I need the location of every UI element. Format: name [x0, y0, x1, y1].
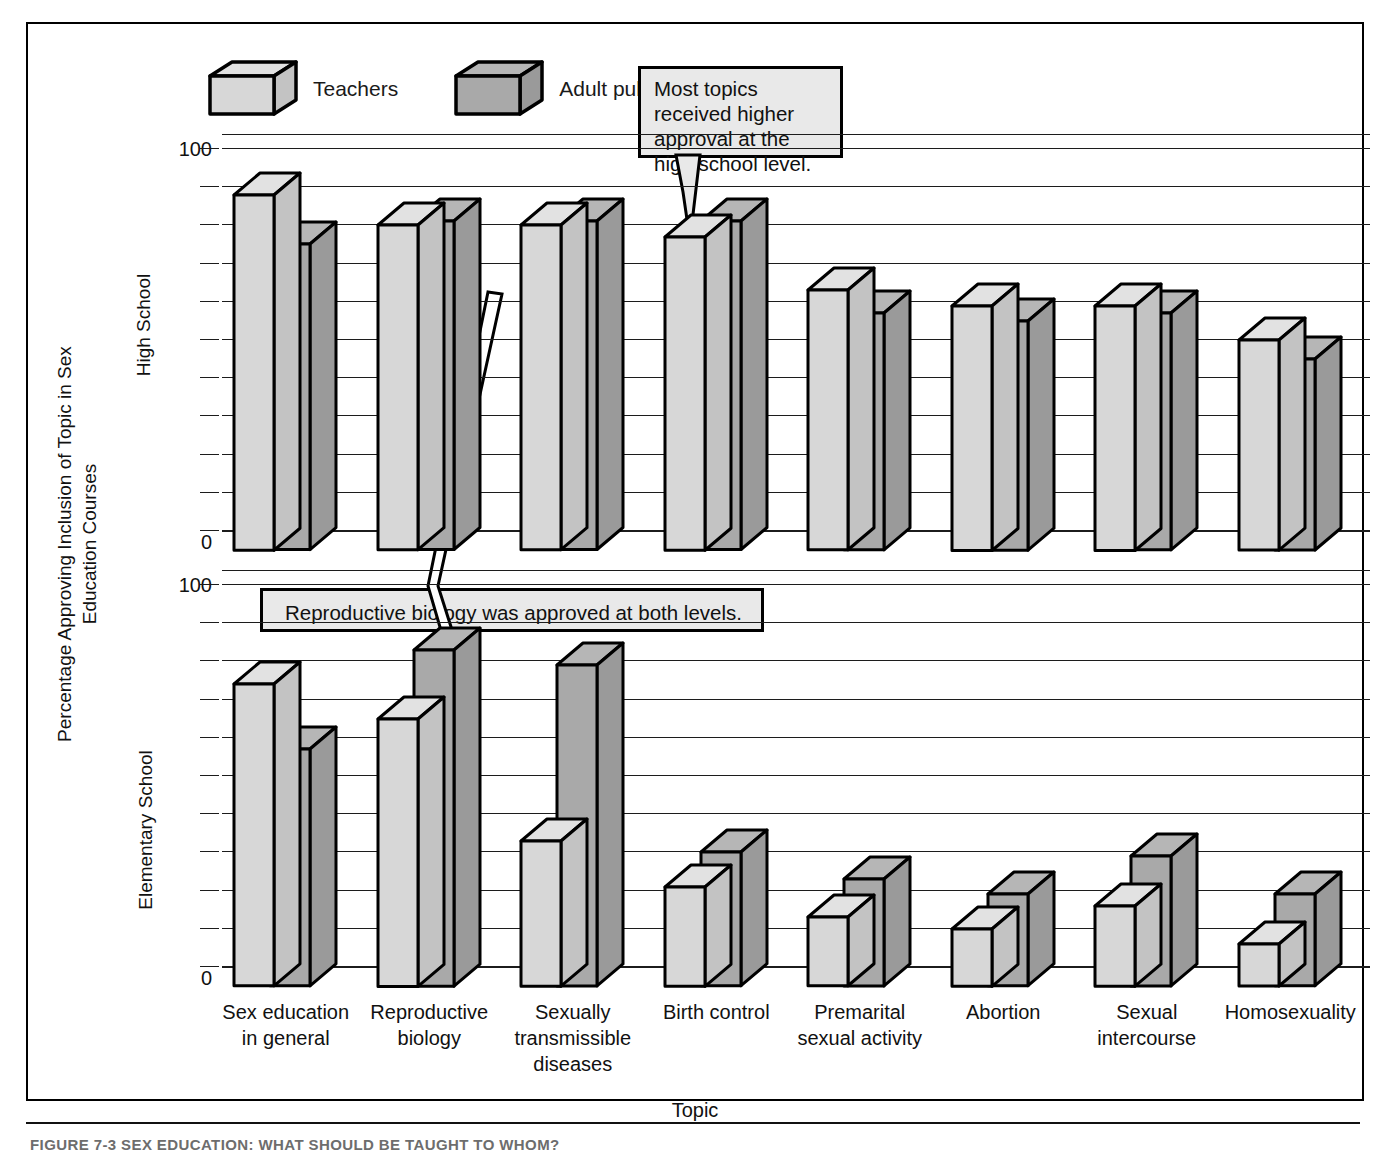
y-axis-tick	[200, 660, 219, 661]
x-axis-category-label: Homosexuality	[1219, 999, 1363, 1025]
x-axis-category-label: Premarital sexual activity	[788, 999, 932, 1051]
y-axis-tick	[200, 263, 219, 264]
panel-label-elementary-school: Elementary School	[135, 740, 157, 920]
bar-teachers	[1237, 946, 1277, 988]
y-axis-tick	[200, 775, 219, 776]
y-axis-tick	[200, 301, 219, 302]
y-axis-tick	[200, 890, 219, 891]
y-tick-100-high-school: 100	[166, 138, 212, 161]
chart-legend: Teachers Adult public	[206, 60, 668, 118]
bar-teachers	[376, 721, 416, 988]
bar-teachers	[806, 919, 846, 988]
panel-label-high-school: High School	[133, 255, 155, 395]
y-axis-tick	[200, 813, 219, 814]
gridline	[222, 148, 1370, 149]
legend-label-teachers: Teachers	[313, 77, 398, 101]
callout-high-school: Most topics received higher approval at …	[638, 66, 843, 158]
figure-page: Teachers Adult public Most topics receiv…	[0, 0, 1385, 1155]
x-axis-title: Topic	[28, 1099, 1362, 1122]
y-tick-100-elementary: 100	[166, 574, 212, 597]
y-axis-tick	[200, 492, 219, 493]
bar-teachers	[663, 239, 703, 552]
y-axis-tick	[200, 737, 219, 738]
cube-icon	[206, 60, 300, 118]
y-axis-tick	[200, 966, 219, 967]
cube-icon	[452, 60, 546, 118]
gridline	[222, 186, 1370, 187]
bar-teachers	[519, 843, 559, 988]
y-axis-tick	[200, 584, 219, 585]
y-axis-tick	[200, 622, 219, 623]
y-axis-title: Percentage Approving Inclusion of Topic …	[52, 329, 102, 759]
bar-teachers	[1093, 308, 1133, 552]
bar-teachers	[376, 227, 416, 552]
y-axis-tick	[200, 454, 219, 455]
gridline-100	[222, 570, 1370, 571]
y-axis-tick	[200, 928, 219, 929]
bar-teachers	[232, 197, 272, 552]
gridline	[222, 660, 1370, 661]
legend-item-adult-public: Adult public	[452, 60, 668, 118]
figure-frame: Teachers Adult public Most topics receiv…	[26, 22, 1364, 1101]
x-axis-category-label: Abortion	[932, 999, 1076, 1025]
gridline	[222, 622, 1370, 623]
y-axis-tick	[200, 530, 219, 531]
y-axis-tick	[200, 148, 219, 149]
y-tick-0-elementary: 0	[166, 967, 212, 990]
gridline	[222, 584, 1370, 585]
bar-teachers	[232, 686, 272, 988]
x-axis-category-label: Sexual intercourse	[1075, 999, 1219, 1051]
y-axis-tick	[200, 339, 219, 340]
bar-teachers	[1237, 342, 1277, 552]
x-axis-category-labels: Sex education in generalReproductive bio…	[222, 999, 1370, 1095]
gridline-100	[222, 134, 1370, 135]
plot-panel-elementary-school	[222, 584, 1370, 988]
y-tick-0-high-school: 0	[166, 531, 212, 554]
y-axis-tick	[200, 415, 219, 416]
y-axis-tick	[200, 851, 219, 852]
y-axis-tick	[200, 186, 219, 187]
legend-item-teachers: Teachers	[206, 60, 398, 118]
caption-divider	[26, 1122, 1360, 1124]
y-axis-tick	[200, 699, 219, 700]
bar-teachers	[1093, 908, 1133, 988]
bar-teachers	[663, 889, 703, 988]
y-axis-tick	[200, 224, 219, 225]
x-axis-category-label: Sexually transmissible diseases	[501, 999, 645, 1077]
x-axis-category-label: Sex education in general	[214, 999, 358, 1051]
x-axis-category-label: Birth control	[645, 999, 789, 1025]
bar-teachers	[950, 931, 990, 988]
plot-panel-high-school	[222, 148, 1370, 552]
figure-caption: FIGURE 7-3 SEX EDUCATION: WHAT SHOULD BE…	[30, 1136, 1360, 1154]
x-axis-category-label: Reproductive biology	[358, 999, 502, 1051]
bar-teachers	[806, 292, 846, 552]
y-axis-tick	[200, 377, 219, 378]
bar-teachers	[950, 308, 990, 552]
bar-teachers	[519, 227, 559, 552]
